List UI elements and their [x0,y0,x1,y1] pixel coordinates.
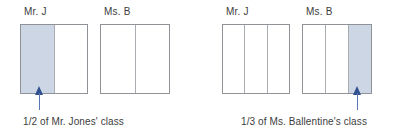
bar-cell [268,25,289,93]
bar-cell [223,25,245,93]
bar-cell-shaded [21,25,55,93]
arrow-stem [357,93,358,110]
arrow-stem [39,93,40,110]
model-label-mr-j-left: Mr. J [24,6,47,17]
bar-model-mr-j-left [20,24,88,94]
bar-model-ms-b-left [100,24,170,94]
bar-cell [245,25,267,93]
bar-cell [326,25,349,93]
bar-cell [303,25,326,93]
bar-cell-shaded [349,25,371,93]
comparison-group-left: Mr. J Ms. B 1/2 of Mr. Jones' class [0,0,196,138]
figure-canvas: Mr. J Ms. B 1/2 of Mr. Jones' class Mr. … [0,0,393,138]
caption-left: 1/2 of Mr. Jones' class [23,116,124,128]
bar-model-ms-b-right [302,24,372,94]
bar-cell [101,25,136,93]
comparison-group-right: Mr. J Ms. B 1/3 of Ms. Ballentine's clas… [196,0,393,138]
bar-cell [136,25,170,93]
caption-right: 1/3 of Ms. Ballentine's class [241,116,367,128]
model-label-ms-b-right: Ms. B [306,6,333,17]
model-label-mr-j-right: Mr. J [226,6,249,17]
model-label-ms-b-left: Ms. B [104,6,131,17]
bar-model-mr-j-right [222,24,290,94]
bar-cell [55,25,88,93]
